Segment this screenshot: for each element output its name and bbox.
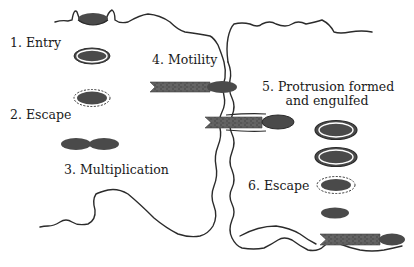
step-5-label: 5. Protrusion formed and engulfed <box>262 80 392 108</box>
protrusion-bacterium <box>205 114 294 132</box>
double-membrane-vacuole-1 <box>315 121 357 140</box>
double-membrane-vacuole-2 <box>315 148 357 167</box>
escaping-bacterium-right <box>317 177 355 194</box>
motile-bacterium-right <box>320 234 405 246</box>
step-4-label: 4. Motility <box>152 53 217 67</box>
dividing-bacteria <box>61 138 119 150</box>
right-cell-membrane <box>227 20 402 251</box>
free-bacterium-right <box>321 208 349 219</box>
step-3-label: 3. Multiplication <box>64 163 169 177</box>
step-2-label: 2. Escape <box>10 108 71 122</box>
step-1-label: 1. Entry <box>10 36 61 50</box>
escaping-bacterium <box>74 90 110 107</box>
left-cell-membrane <box>40 10 225 237</box>
step-5-label-line2: and engulfed <box>262 94 392 108</box>
step-5-label-line1: 5. Protrusion formed <box>262 80 392 94</box>
vacuole-bacterium <box>74 48 110 64</box>
diagram-canvas: 1. Entry 2. Escape 3. Multiplication 4. … <box>0 0 414 267</box>
diagram-graphics <box>0 0 414 267</box>
motile-bacterium-with-actin-tail <box>150 81 237 93</box>
step-6-label: 6. Escape <box>248 179 309 193</box>
